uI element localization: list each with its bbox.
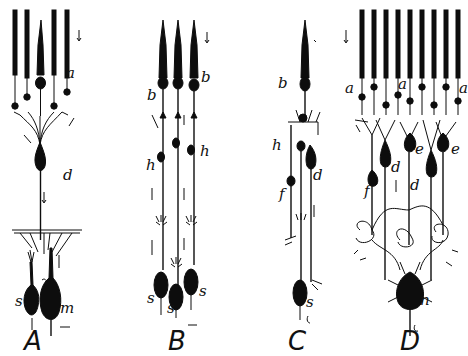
label-f-panel-c: f (278, 185, 287, 203)
label-b2-panel-b: b (147, 86, 157, 104)
label-d2-panel-d: d (410, 176, 420, 194)
panel-label-a: A (22, 326, 42, 356)
panel-label-c: C (288, 326, 307, 356)
panel-label-d: D (400, 326, 420, 356)
label-e1-panel-d: e (415, 140, 424, 158)
label-h-panel-c: h (272, 136, 282, 154)
label-s1-panel-b: s (147, 289, 155, 307)
label-h1-panel-b: h (146, 156, 156, 174)
panel-letters: A B C D (22, 326, 420, 356)
label-m-panel-a: m (60, 299, 74, 317)
label-d-panel-c: d (313, 166, 323, 184)
label-a2-panel-d: a (398, 75, 407, 93)
label-b1-panel-b: b (201, 68, 211, 86)
label-s-panel-c: s (306, 293, 314, 311)
label-a-panel-a: a (66, 64, 75, 82)
label-a1-panel-d: a (345, 79, 354, 97)
panel-label-b: B (168, 326, 186, 356)
cell-labels: a d s m b b h h s s s b h f d s a a a e … (15, 64, 468, 317)
label-e2-panel-d: e (451, 140, 460, 158)
label-n-panel-d: n (420, 291, 430, 309)
label-a3-panel-d: a (459, 79, 468, 97)
label-h2-panel-b: h (200, 142, 210, 160)
label-s2-panel-b: s (167, 299, 175, 317)
panel-b (152, 20, 209, 325)
label-d-panel-a: d (63, 166, 73, 184)
label-b-panel-c: b (278, 74, 288, 92)
label-s-panel-a: s (15, 292, 23, 310)
panel-d (344, 10, 461, 336)
label-s3-panel-b: s (199, 282, 207, 300)
label-d1-panel-d: d (391, 158, 401, 176)
retina-neuron-figure: a d s m b b h h s s s b h f d s a a a e … (0, 0, 468, 356)
